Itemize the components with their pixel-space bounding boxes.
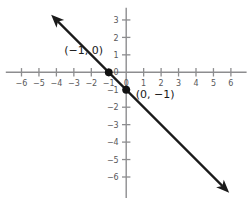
plot-area: −6−5−4−3−2−10123456 −6−5−4−3−2−10123 (−1…	[0, 0, 250, 198]
y-tick-label: −5	[107, 156, 119, 165]
x-tick-label: 3	[176, 79, 181, 88]
y-tick-label: 0	[114, 68, 119, 77]
graph-line-group	[51, 15, 229, 193]
y-tick-label: −4	[107, 138, 119, 147]
x-tick-label: 1	[141, 79, 146, 88]
y-tick-label: −2	[107, 103, 119, 112]
x-tick-label: −3	[68, 79, 80, 88]
x-tick-label: 5	[211, 79, 216, 88]
y-tick-label: 2	[114, 34, 119, 43]
y-tick-label-group: −6−5−4−3−2−10123	[107, 16, 119, 182]
plotted-point	[105, 68, 113, 76]
x-tick-label: 2	[159, 79, 164, 88]
y-tick-label: −1	[107, 86, 119, 95]
point-coordinate-label: (−1, 0)	[64, 44, 103, 57]
x-tick-label: −6	[16, 79, 28, 88]
point-coordinate-label: (0, −1)	[136, 88, 175, 101]
y-tick-label: −3	[107, 121, 119, 130]
plotted-point	[122, 86, 130, 94]
x-tick-label: −4	[51, 79, 63, 88]
x-tick-label: 4	[193, 79, 198, 88]
coordinate-plane-graph: −6−5−4−3−2−10123456 −6−5−4−3−2−10123 (−1…	[0, 0, 250, 198]
y-tick-label: 3	[114, 16, 119, 25]
axes-group	[6, 8, 247, 198]
y-tick-label: −6	[107, 173, 119, 182]
x-tick-label: −5	[33, 79, 45, 88]
x-tick-label: −2	[85, 79, 97, 88]
x-tick-label: 6	[228, 79, 233, 88]
y-tick-label: 1	[114, 51, 119, 60]
